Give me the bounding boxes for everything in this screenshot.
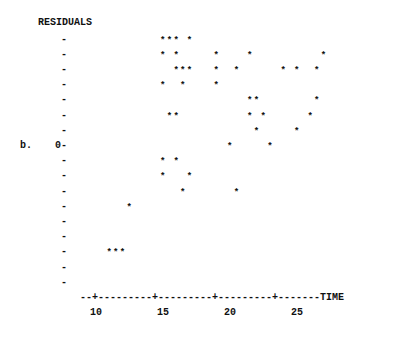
data-point-star-icon: * bbox=[106, 249, 111, 258]
data-point-star-icon: * bbox=[167, 113, 172, 122]
data-point-star-icon: * bbox=[267, 143, 272, 152]
panel-label: b. bbox=[20, 140, 32, 151]
data-point-star-icon: * bbox=[321, 52, 326, 61]
data-point-star-icon: * bbox=[180, 189, 185, 198]
data-point-star-icon: * bbox=[314, 67, 319, 76]
y-tick: - bbox=[61, 247, 67, 257]
y-tick: - bbox=[61, 126, 67, 136]
data-point-star-icon: * bbox=[173, 67, 178, 76]
data-point-star-icon: * bbox=[173, 37, 178, 46]
data-point-star-icon: * bbox=[294, 67, 299, 76]
data-point-star-icon: * bbox=[187, 67, 192, 76]
data-point-star-icon: * bbox=[113, 249, 118, 258]
data-point-star-icon: * bbox=[281, 67, 286, 76]
y-tick: - bbox=[61, 217, 67, 227]
data-point-star-icon: * bbox=[167, 37, 172, 46]
x-axis-line: --+---------+---------+---------+-------… bbox=[80, 293, 344, 303]
x-tick-15: 15 bbox=[157, 307, 169, 318]
data-point-star-icon: * bbox=[160, 82, 165, 91]
y-tick: - bbox=[61, 156, 67, 166]
data-point-star-icon: * bbox=[294, 128, 299, 137]
data-point-star-icon: * bbox=[160, 37, 165, 46]
data-point-star-icon: * bbox=[314, 97, 319, 106]
data-point-star-icon: * bbox=[214, 52, 219, 61]
data-point-star-icon: * bbox=[234, 189, 239, 198]
data-point-star-icon: * bbox=[234, 67, 239, 76]
data-point-star-icon: * bbox=[307, 113, 312, 122]
y-tick: - bbox=[61, 202, 67, 212]
data-point-star-icon: * bbox=[254, 97, 259, 106]
data-point-star-icon: * bbox=[187, 173, 192, 182]
y-tick: - bbox=[61, 263, 67, 273]
y-tick: - bbox=[61, 50, 67, 60]
data-point-star-icon: * bbox=[173, 52, 178, 61]
data-point-star-icon: * bbox=[261, 113, 266, 122]
y-tick: - bbox=[61, 35, 67, 45]
data-point-star-icon: * bbox=[173, 113, 178, 122]
y-tick: - bbox=[61, 65, 67, 75]
x-tick-10: 10 bbox=[90, 307, 102, 318]
y-tick-zero: 0- bbox=[55, 141, 67, 151]
data-point-star-icon: * bbox=[127, 204, 132, 213]
y-tick: - bbox=[61, 278, 67, 288]
data-point-star-icon: * bbox=[180, 82, 185, 91]
y-tick: - bbox=[61, 187, 67, 197]
data-point-star-icon: * bbox=[160, 52, 165, 61]
x-tick-20: 20 bbox=[224, 307, 236, 318]
data-point-star-icon: * bbox=[254, 128, 259, 137]
y-tick: - bbox=[61, 111, 67, 121]
y-tick: - bbox=[61, 95, 67, 105]
y-tick: - bbox=[61, 171, 67, 181]
data-point-star-icon: * bbox=[247, 97, 252, 106]
data-point-star-icon: * bbox=[160, 173, 165, 182]
data-point-star-icon: * bbox=[187, 37, 192, 46]
y-axis-label: RESIDUALS bbox=[38, 17, 92, 28]
data-point-star-icon: * bbox=[214, 82, 219, 91]
data-point-star-icon: * bbox=[120, 249, 125, 258]
data-point-star-icon: * bbox=[180, 67, 185, 76]
data-point-star-icon: * bbox=[173, 158, 178, 167]
y-tick: - bbox=[61, 232, 67, 242]
data-point-star-icon: * bbox=[247, 52, 252, 61]
x-tick-25: 25 bbox=[291, 307, 303, 318]
data-point-star-icon: * bbox=[247, 113, 252, 122]
data-point-star-icon: * bbox=[227, 143, 232, 152]
y-tick: - bbox=[61, 80, 67, 90]
data-point-star-icon: * bbox=[214, 67, 219, 76]
data-point-star-icon: * bbox=[160, 158, 165, 167]
